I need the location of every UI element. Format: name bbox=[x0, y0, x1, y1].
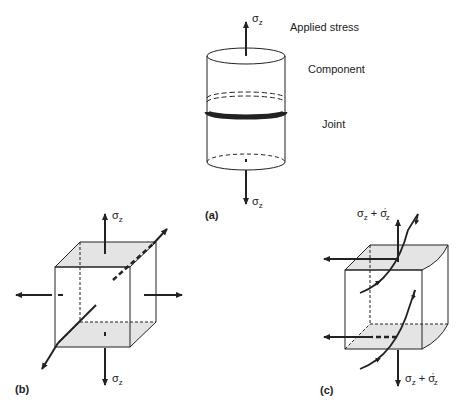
joint-label: Joint bbox=[322, 118, 345, 130]
component-label: Component bbox=[308, 63, 365, 75]
panel-label-b: (b) bbox=[15, 383, 29, 395]
diagonal-arrow-in-b bbox=[42, 343, 58, 369]
sigma-z-bottom-a: σz bbox=[252, 195, 263, 210]
sigma-z-top-a: σz bbox=[252, 12, 263, 27]
sigma-z-top-b: σz bbox=[112, 209, 123, 224]
applied-stress-label: Applied stress bbox=[290, 21, 359, 33]
stress-diagram-figure: σz Applied stress Component Joint σz (a)… bbox=[0, 0, 460, 404]
diagonal-arrow-out-b bbox=[153, 229, 167, 244]
sigma-z-bottom-b: σz bbox=[112, 372, 123, 387]
diagram-graphics bbox=[0, 0, 460, 404]
sigma-sum-top-c: σz + σ'z bbox=[357, 206, 390, 222]
cylinder-component bbox=[207, 48, 285, 170]
panel-label-c: (c) bbox=[320, 384, 333, 396]
panel-label-a: (a) bbox=[205, 209, 218, 221]
sigma-sum-bottom-c: σz + σ'z bbox=[405, 371, 438, 387]
joint-band bbox=[207, 112, 285, 117]
